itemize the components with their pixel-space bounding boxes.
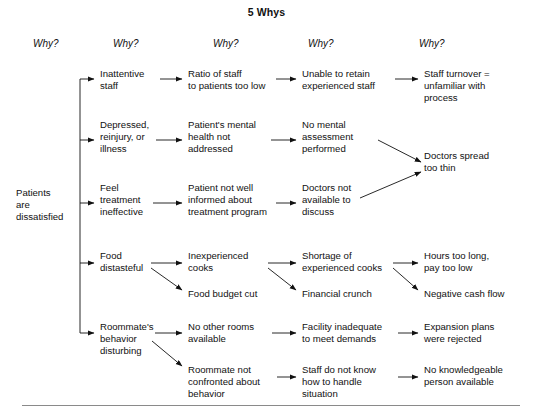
node-depressed-reinjury: Depressed, reinjury, or illness	[100, 119, 149, 156]
node-roommate-not-confronted: Roommate not confronted about behavior	[188, 364, 260, 401]
node-hours-too-long: Hours too long, pay too low	[424, 250, 489, 274]
node-inattentive-staff: Inattentive staff	[100, 68, 144, 92]
node-expansion-plans-rejected: Expansion plans were rejected	[424, 321, 494, 345]
node-negative-cash-flow: Negative cash flow	[424, 288, 505, 300]
node-ratio-of-staff: Ratio of staff to patients too low	[188, 68, 265, 92]
node-staff-do-not-know: Staff do not know how to handle situatio…	[302, 364, 376, 401]
arrow-food-to-budgetcut	[151, 268, 182, 290]
node-financial-crunch: Financial crunch	[302, 288, 372, 300]
arrow-doctorsnot-to-doctorsthin	[360, 172, 421, 198]
why-header-3: Why?	[213, 38, 239, 49]
node-food-distasteful: Food distasteful	[100, 250, 143, 274]
node-patient-not-informed: Patient not well informed about treatmen…	[188, 182, 267, 219]
node-mental-health-not-addressed: Patient's mental health not addressed	[188, 119, 256, 156]
why-header-5: Why?	[419, 38, 445, 49]
why-header-4: Why?	[308, 38, 334, 49]
why-header-2: Why?	[113, 38, 139, 49]
node-doctors-spread-too-thin: Doctors spread too thin	[424, 150, 489, 174]
node-staff-turnover: Staff turnover = unfamiliar with process	[424, 68, 490, 105]
node-no-knowledgeable-person: No knowledgeable person available	[424, 364, 503, 388]
node-no-mental-assessment: No mental assessment performed	[302, 119, 353, 156]
page-title: 5 Whys	[0, 6, 533, 18]
node-inexperienced-cooks: Inexperienced cooks	[188, 250, 248, 274]
root-node-patients-dissatisfied: Patients are dissatisfied	[16, 187, 63, 224]
why-header-1: Why?	[33, 38, 59, 49]
node-shortage-experienced-cooks: Shortage of experienced cooks	[302, 250, 382, 274]
node-no-other-rooms: No other rooms available	[188, 321, 254, 345]
arrow-shortage-to-negativecash	[393, 268, 418, 290]
bottom-divider	[22, 405, 520, 406]
node-unable-to-retain: Unable to retain experienced staff	[302, 68, 375, 92]
node-doctors-not-available: Doctors not available to discuss	[302, 182, 351, 219]
node-feel-treatment-ineffective: Feel treatment ineffective	[100, 182, 143, 219]
node-facility-inadequate: Facility inadequate to meet demands	[302, 321, 382, 345]
node-roommate-behavior: Roommate's behavior disturbing	[100, 321, 154, 358]
node-food-budget-cut: Food budget cut	[188, 288, 257, 300]
arrow-assessment-to-doctorsthin	[378, 140, 421, 162]
arrow-cooks-to-financialcrunch	[268, 268, 296, 290]
five-whys-diagram: 5 Whys	[0, 0, 533, 419]
arrow-roommate-to-notconfronted	[152, 341, 182, 366]
